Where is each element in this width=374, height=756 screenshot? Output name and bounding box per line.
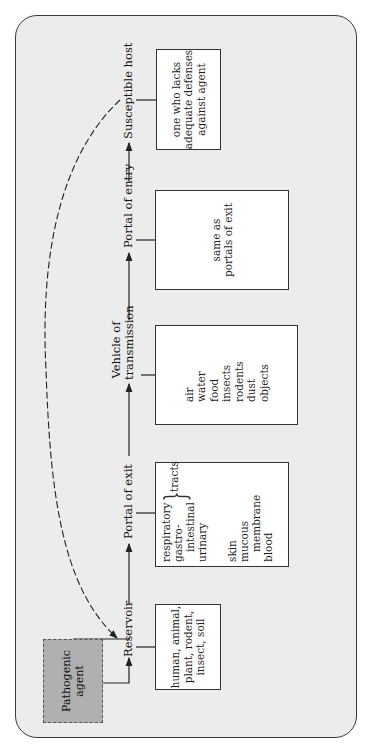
vehicle-box: air water food insects rodents dust obje… [155,325,298,425]
vehicle-examples: air water food insects rodents dust obje… [183,361,271,402]
susceptible-host-box: one who lacks adequate defenses against … [156,49,221,150]
pathogenic-agent-box: Pathogenic agent [43,639,103,723]
tracts-label: tracts [168,461,181,492]
exit-item: gastro- [172,525,185,562]
diagram-canvas: Pathogenic agent Reservoir Portal of exi… [0,0,374,756]
reservoir-box: human, animal, plant, rodent, insect, so… [155,604,221,690]
portal-of-exit-label: Portal of exit [122,464,135,539]
exit-item: mucous [238,521,251,562]
exit-item: urinary [196,523,209,562]
exit-item: blood [262,533,275,562]
vehicle-of-transmission-label: Vehicle of transmission [110,320,136,380]
pathogenic-agent-label: Pathogenic agent [60,650,86,712]
reservoir-label: Reservoir [122,601,135,657]
reservoir-examples: human, animal, plant, rodent, insect, so… [169,606,207,688]
exit-item: membrane [250,495,263,552]
portal-of-entry-description: same as portals of exit [210,203,235,277]
exit-item: intestinal [184,502,197,552]
susceptible-host-description: one who lacks adequate defenses against … [170,50,208,150]
susceptible-host-label: Susceptible host [122,43,135,139]
exit-item: skin [226,540,239,562]
portal-of-entry-label: Portal of entry [122,164,135,248]
brace-icon: } [160,492,190,502]
portal-of-entry-box: same as portals of exit [155,190,289,290]
exit-item: respiratory [160,503,173,562]
portal-of-exit-box: respiratory gastro- intestinal urinary }… [155,462,289,567]
